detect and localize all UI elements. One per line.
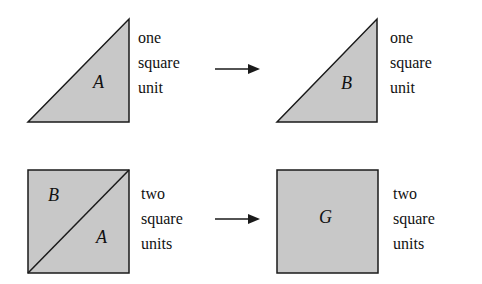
- caption-row2-left: two square units: [141, 181, 183, 256]
- label-a: A: [96, 227, 107, 248]
- caption-row1-left: one square unit: [138, 25, 180, 100]
- arrow-icon: [215, 214, 260, 224]
- caption-row2-right: two square units: [393, 181, 435, 256]
- caption-row1-right: one square unit: [390, 25, 432, 100]
- label-a: A: [93, 72, 104, 93]
- triangle-b: [277, 19, 377, 122]
- label-b: B: [48, 185, 59, 206]
- triangle-a: [28, 19, 129, 122]
- arrow-icon: [215, 64, 260, 74]
- label-g: G: [319, 207, 332, 228]
- label-b: B: [341, 73, 352, 94]
